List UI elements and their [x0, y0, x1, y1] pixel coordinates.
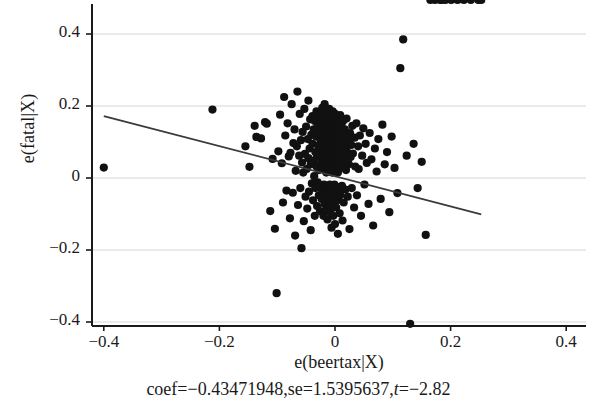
scatter-point — [348, 184, 356, 192]
scatter-point — [281, 131, 289, 139]
scatter-point — [388, 133, 396, 141]
scatter-point — [241, 142, 249, 150]
scatter-point — [293, 88, 301, 96]
scatter-point — [345, 225, 353, 233]
scatter-point — [350, 203, 358, 211]
scatter-point — [294, 201, 302, 209]
regression-stats-caption: coef=−0.43471948,se=1.5395637,t=−2.82 — [0, 379, 597, 400]
scatter-point — [307, 226, 315, 234]
scatter-point — [390, 164, 398, 172]
scatter-point — [276, 111, 284, 119]
scatter-point — [371, 144, 379, 152]
scatter-point — [304, 97, 312, 105]
x-tick-label: 0 — [300, 332, 370, 352]
scatter-point — [274, 147, 282, 155]
scatter-point — [374, 135, 382, 143]
scatter-point — [358, 152, 366, 160]
x-tick-label: 0.4 — [531, 332, 597, 352]
scatter-point — [399, 35, 407, 43]
scatter-point — [290, 125, 298, 133]
scatter-point — [297, 136, 305, 144]
scatter-point — [300, 217, 308, 225]
scatter-point — [292, 167, 300, 175]
y-tick-label: 0.2 — [16, 94, 80, 114]
scatter-point — [100, 163, 108, 171]
x-tick-label: −0.2 — [184, 332, 254, 352]
scatter-point — [208, 106, 216, 114]
scatter-point — [338, 216, 346, 224]
scatter-point — [354, 142, 362, 150]
scatter-point — [279, 198, 287, 206]
scatter-point — [291, 232, 299, 240]
scatter-point — [362, 140, 370, 148]
scatter-point — [414, 184, 422, 192]
scatter-point — [406, 320, 414, 328]
scatter-point — [403, 152, 411, 160]
x-tick-label: 0.2 — [416, 332, 486, 352]
scatter-point — [349, 149, 357, 157]
scatter-point — [344, 193, 352, 201]
caption-coef-se-text: coef=−0.43471948,se=1.5395637, — [146, 379, 393, 399]
scatter-point — [422, 231, 430, 239]
scatter-point — [369, 221, 377, 229]
scatter-point — [353, 191, 361, 199]
scatter-point — [352, 119, 360, 127]
scatter-point — [385, 208, 393, 216]
y-tick-label: −0.4 — [16, 310, 80, 330]
scatter-point — [266, 207, 274, 215]
scatter-point — [367, 155, 375, 163]
caption-t-value-text: =−2.82 — [399, 379, 451, 399]
x-tick-label: −0.4 — [69, 332, 139, 352]
scatter-point — [296, 184, 304, 192]
scatter-point — [418, 158, 426, 166]
scatter-point — [286, 214, 294, 222]
scatter-point — [334, 230, 342, 238]
scatter-point — [356, 131, 364, 139]
scatter-point — [284, 119, 292, 127]
scatter-point — [245, 163, 253, 171]
scatter-point — [273, 289, 281, 297]
y-tick-label: 0.4 — [16, 22, 80, 42]
scatter-point — [342, 115, 350, 123]
scatter-point — [331, 220, 339, 228]
scatter-point — [271, 225, 279, 233]
scatter-point — [289, 189, 297, 197]
scatter-point — [300, 105, 308, 113]
scatter-point — [383, 148, 391, 156]
scatter-point — [378, 121, 386, 129]
scatter-point — [410, 140, 418, 148]
scatter-point — [357, 212, 365, 220]
scatter-point — [257, 134, 265, 142]
scatter-point — [377, 195, 385, 203]
scatter-point — [355, 165, 363, 173]
scatter-point — [460, 0, 468, 4]
scatter-point — [381, 160, 389, 168]
y-tick-label: 0 — [16, 166, 80, 186]
scatter-point — [297, 244, 305, 252]
scatter-point — [347, 141, 355, 149]
scatter-points — [100, 0, 486, 328]
scatter-point — [302, 122, 310, 130]
scatter-point — [364, 200, 372, 208]
x-axis-title: e(beertax|X) — [92, 352, 586, 373]
scatter-point — [286, 149, 294, 157]
scatter-point — [373, 167, 381, 175]
scatter-point — [288, 100, 296, 108]
scatter-point — [280, 93, 288, 101]
scatter-point — [303, 205, 311, 213]
partial-regression-plot: e(fatal|X) e(beertax|X) coef=−0.43471948… — [0, 0, 597, 414]
scatter-point — [366, 129, 374, 137]
scatter-point — [467, 0, 475, 4]
scatter-point — [251, 122, 259, 130]
scatter-point — [263, 120, 271, 128]
scatter-point — [336, 209, 344, 217]
y-tick-label: −0.2 — [16, 238, 80, 258]
scatter-point — [396, 64, 404, 72]
